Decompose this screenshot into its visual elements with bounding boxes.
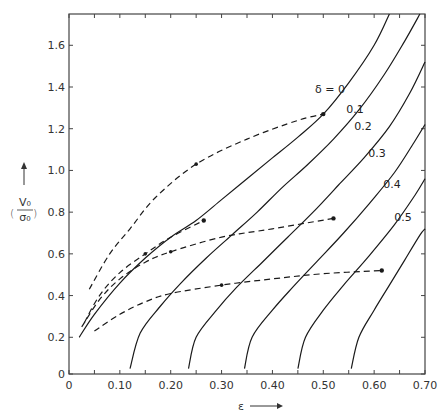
arrowhead-icon (380, 268, 384, 272)
series-line (84, 221, 204, 323)
arrowhead-icon (202, 218, 206, 222)
axes: 00.100.200.300.400.500.600.7000.20.40.60… (10, 14, 437, 413)
x-tick-label: 0.70 (413, 379, 438, 392)
x-tick-label: 0.50 (311, 379, 336, 392)
y-tick-label: 0.4 (48, 290, 66, 303)
y-tick-label: 0.8 (48, 206, 66, 219)
arrowhead-icon (220, 283, 224, 287)
curve-label: 0.4 (383, 178, 401, 191)
x-tick-label: 0.60 (362, 379, 387, 392)
curve-label: 0.2 (354, 120, 372, 133)
arrow-up-icon (21, 162, 27, 169)
chart: 00.100.200.300.400.500.600.7000.20.40.60… (0, 0, 438, 417)
x-tick-label: 0.40 (260, 379, 285, 392)
series-line (94, 271, 381, 332)
svg-text:): ) (33, 207, 37, 220)
x-axis-label: ε (238, 400, 244, 413)
y-tick-label: 1.4 (48, 81, 66, 94)
x-tick-label: 0.30 (209, 379, 234, 392)
x-tick-label: 0.10 (108, 379, 133, 392)
y-tick-label: 1.0 (48, 164, 66, 177)
x-tick-label: 0 (66, 379, 73, 392)
series-line (130, 14, 420, 369)
curve-label: 0.1 (346, 103, 364, 116)
arrowhead-icon (331, 216, 335, 220)
curve-label: 0.5 (394, 211, 412, 224)
x-tick-label: 0.20 (158, 379, 183, 392)
y-tick-label: 1.2 (48, 123, 66, 136)
arrowhead-icon (194, 162, 198, 166)
labels-layer: δ = 00.10.20.30.40.5 (315, 83, 412, 224)
series-line (189, 62, 426, 369)
plot-frame (69, 14, 425, 374)
arrowhead-icon (321, 112, 325, 116)
series-line (89, 114, 323, 289)
svg-text:σ₀: σ₀ (19, 211, 31, 224)
arrowhead-icon (143, 252, 147, 256)
series-layer (79, 14, 425, 369)
series-line (79, 14, 389, 337)
y-axis-label: V₀σ₀() (10, 196, 37, 224)
y-tick-label: 0.2 (48, 331, 66, 344)
y-tick-label: 0.6 (48, 248, 66, 261)
series-line (245, 125, 426, 369)
y-tick-label: 0 (58, 368, 65, 381)
curve-label: δ = 0 (315, 83, 345, 96)
curve-label: 0.3 (368, 147, 386, 160)
y-tick-label: 1.6 (48, 39, 66, 52)
arrowhead-icon (169, 250, 173, 254)
svg-text:(: ( (10, 207, 14, 220)
series-line (351, 229, 425, 369)
svg-text:V₀: V₀ (19, 196, 32, 209)
arrow-right-icon (277, 403, 283, 409)
